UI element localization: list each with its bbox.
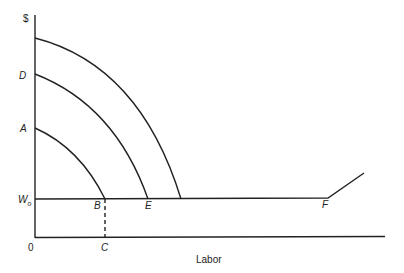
- point-c-label: C: [101, 243, 108, 253]
- curve-outer: [35, 38, 181, 199]
- wage-label: Wo: [18, 195, 31, 209]
- y-axis-label: $: [23, 14, 29, 24]
- origin-label: 0: [28, 243, 34, 253]
- curve-a: [35, 128, 105, 199]
- point-a-label: A: [20, 124, 27, 134]
- wage-supply-line: [35, 173, 364, 199]
- wage-label-sub: o: [27, 200, 31, 207]
- point-b-label: B: [94, 201, 101, 211]
- labor-diagram: [0, 0, 404, 273]
- x-axis: [35, 237, 385, 238]
- point-d-label: D: [19, 71, 26, 81]
- point-e-label: E: [145, 201, 152, 211]
- x-axis-label: Labor: [196, 255, 222, 265]
- point-f-label: F: [322, 200, 328, 210]
